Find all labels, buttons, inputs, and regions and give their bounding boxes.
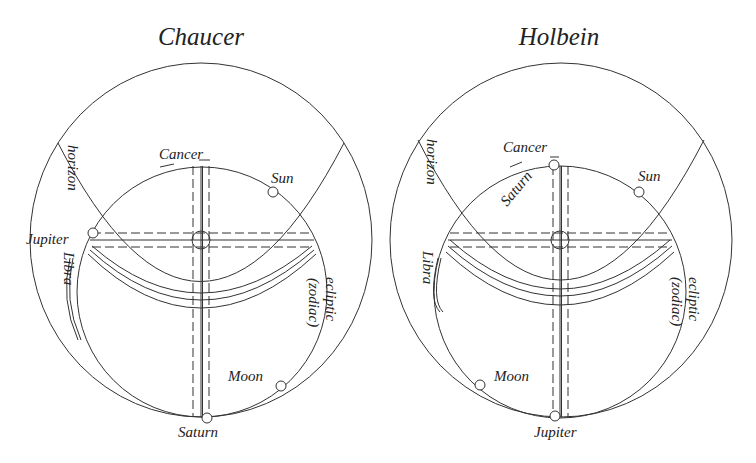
label-cancer: Cancer [159,146,203,162]
libra-arc-2 [436,258,443,312]
label-moon: Moon [227,368,263,384]
astronomical-diagram: Chaucer Cancer Sun [0,0,756,463]
label-horizon: horizon [424,139,440,185]
saturn-marker [549,160,559,170]
label-libra: Libra [61,251,77,285]
label-zodiac: (zodiac) [305,278,322,327]
panel-holbein: Holbein Cancer Saturn Sun Moon Jupiter h… [390,23,732,440]
label-jupiter: Jupiter [26,231,69,247]
label-jupiter: Jupiter [534,424,577,440]
label-horizon: horizon [65,145,81,191]
label-moon: Moon [493,368,529,384]
cancer-tick [160,164,174,167]
moon-marker [475,380,485,390]
saturn-marker [202,413,212,423]
label-zodiac: (zodiac) [668,277,685,326]
panel-title: Holbein [518,23,600,50]
panel-chaucer: Chaucer Cancer Sun [26,23,372,440]
label-saturn: Saturn [178,424,218,440]
sun-marker [634,187,644,197]
label-sun: Sun [271,170,294,186]
label-ecliptic: ecliptic [686,277,702,321]
label-cancer: Cancer [503,139,547,155]
label-sun: Sun [638,168,661,184]
moon-marker [276,381,286,391]
jupiter-marker [88,228,98,238]
label-libra: Libra [420,250,436,284]
panel-title: Chaucer [158,23,244,50]
label-ecliptic: ecliptic [323,277,339,321]
cancer-tick [510,162,522,167]
jupiter-marker [550,411,560,421]
sun-marker [268,187,278,197]
